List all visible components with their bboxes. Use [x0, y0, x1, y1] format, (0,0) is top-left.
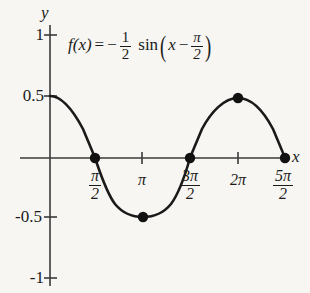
marked-point-5pi-over-2: [280, 153, 290, 163]
fraction-denominator: 2: [89, 186, 101, 203]
fraction-numerator: π: [191, 30, 203, 47]
x-tick-label-2pi: 2π: [230, 172, 246, 188]
equation-leading-minus: −: [107, 35, 117, 54]
equation-equals: =: [95, 35, 105, 54]
fraction-denominator: 2: [191, 47, 203, 63]
fraction-numerator: 3π: [180, 168, 200, 186]
equation-open-paren: (: [160, 37, 166, 56]
y-tick-label-negative-1: -1: [0, 269, 44, 286]
equation-coefficient-fraction: 1 2: [120, 30, 132, 62]
x-tick-label-5pi-over-2: 5π 2: [273, 168, 293, 202]
equation-lhs: f(x): [68, 35, 92, 54]
fraction-denominator: 2: [273, 186, 293, 203]
marked-point-pi: [138, 212, 148, 222]
function-equation: f(x)=− 1 2 sin(x− π 2 ): [68, 30, 213, 62]
y-axis-label: y: [41, 4, 49, 21]
fraction-denominator: 2: [180, 186, 200, 203]
marked-point-3pi-over-2: [185, 153, 195, 163]
fraction-5pi-over-2: 5π 2: [273, 168, 293, 202]
fraction-denominator: 2: [120, 47, 132, 63]
fraction-numerator: π: [89, 168, 101, 186]
x-tick-label-pi-over-2: π 2: [89, 168, 101, 202]
marked-point-2pi: [233, 93, 243, 103]
x-tick-label-3pi-over-2: 3π 2: [180, 168, 200, 202]
equation-argument-fraction: π 2: [191, 30, 203, 62]
y-tick-label-0point5: 0.5: [0, 87, 44, 104]
fraction-3pi-over-2: 3π 2: [180, 168, 200, 202]
x-tick-label-pi: π: [138, 172, 146, 188]
fraction-pi-over-2: π 2: [89, 168, 101, 202]
fraction-numerator: 1: [120, 30, 132, 47]
x-axis-label: x: [292, 148, 300, 165]
y-tick-label-1: 1: [0, 26, 44, 43]
function-curve: [50, 96, 285, 217]
marked-point-pi-over-2: [90, 153, 100, 163]
fraction-numerator: 5π: [273, 168, 293, 186]
equation-close-paren: ): [205, 37, 211, 56]
equation-sin-function: sin: [138, 35, 158, 54]
y-tick-label-negative-0point5: -0.5: [0, 208, 42, 225]
equation-argument-minus: −: [179, 35, 189, 54]
function-graph-figure: y x 1 0.5 -0.5 -1 π 2 π 3π 2 2π 5π 2 f(x…: [0, 0, 310, 293]
equation-argument-variable: x: [168, 35, 176, 54]
